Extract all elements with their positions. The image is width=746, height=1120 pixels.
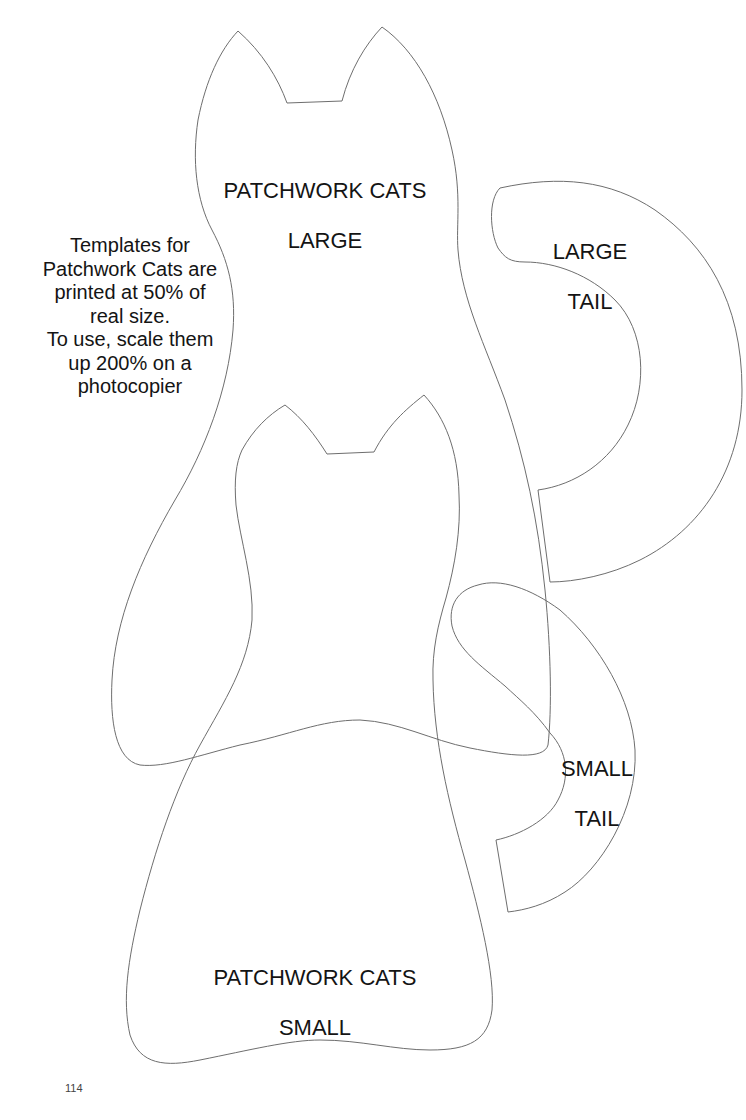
- instructions-line: up 200% on a: [14, 352, 246, 376]
- page-number: 114: [65, 1082, 83, 1094]
- instructions-line: real size.: [14, 305, 246, 329]
- large-tail-label-line-1: LARGE: [540, 239, 640, 264]
- small-cat-label-line-2: SMALL: [190, 1015, 440, 1040]
- large-tail-label-line-2: TAIL: [540, 289, 640, 314]
- small-tail-label: SMALL TAIL: [547, 731, 647, 856]
- small-tail-label-line-2: TAIL: [547, 806, 647, 831]
- instructions-line: printed at 50% of: [14, 281, 246, 305]
- instructions-line: photocopier: [14, 375, 246, 399]
- large-tail-label: LARGE TAIL: [540, 214, 640, 339]
- instructions-line: Patchwork Cats are: [14, 258, 246, 282]
- instructions-text: Templates for Patchwork Cats are printed…: [14, 234, 246, 399]
- small-tail-label-line-1: SMALL: [547, 756, 647, 781]
- large-cat-label-line-1: PATCHWORK CATS: [200, 178, 450, 203]
- instructions-line: Templates for: [14, 234, 246, 258]
- template-page: PATCHWORK CATS LARGE LARGE TAIL Template…: [0, 0, 746, 1120]
- small-cat-label: PATCHWORK CATS SMALL: [190, 940, 440, 1065]
- instructions-line: To use, scale them: [14, 328, 246, 352]
- small-cat-label-line-1: PATCHWORK CATS: [190, 965, 440, 990]
